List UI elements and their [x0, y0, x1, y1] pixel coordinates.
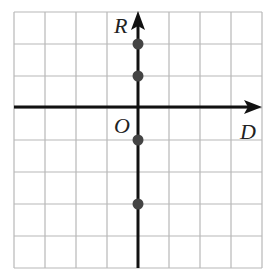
origin-label: O — [114, 113, 130, 138]
data-point — [133, 135, 144, 146]
horizontal-axis-label: D — [239, 119, 256, 144]
vertical-axis-label: R — [113, 13, 128, 38]
coordinate-diagram: R O D — [0, 0, 264, 277]
data-point — [133, 71, 144, 82]
data-point — [133, 199, 144, 210]
data-point — [133, 39, 144, 50]
